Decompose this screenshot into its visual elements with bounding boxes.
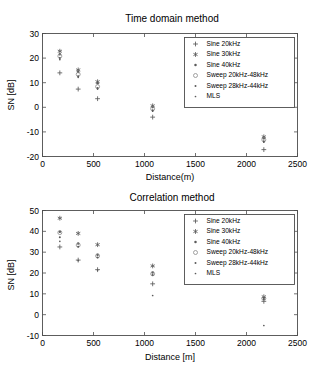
- x-tick-label: 1500: [186, 338, 205, 348]
- data-point: [76, 87, 81, 92]
- x-tick-label: 500: [86, 159, 100, 169]
- data-point: [263, 325, 265, 327]
- legend-marker-small-dot: [195, 262, 197, 264]
- x-tick-label: 0: [40, 159, 45, 169]
- legend-marker-small-dot: [195, 85, 197, 87]
- chart-title: Correlation method: [129, 192, 214, 203]
- y-tick-label: 0: [34, 310, 39, 320]
- x-tick-label: 1000: [135, 159, 154, 169]
- x-axis-label: Distance(m): [146, 172, 195, 182]
- data-point: [263, 298, 265, 300]
- legend: Sine 20kHzSine 30kHzSine 40kHzSweep 20kH…: [185, 38, 295, 108]
- legend-label: Sine 30kHz: [207, 227, 241, 234]
- data-point: [59, 236, 61, 238]
- x-axis-label: Distance [m]: [145, 352, 195, 362]
- x-tick-label: 2500: [288, 159, 307, 169]
- legend-label: Sweep 20kHz-48kHz: [207, 71, 269, 79]
- y-axis-label: SN [dB]: [6, 259, 16, 290]
- data-point: [58, 49, 62, 54]
- data-point: [97, 257, 99, 259]
- data-point: [57, 70, 62, 75]
- legend-marker-point: [195, 96, 197, 98]
- y-tick-label: -20: [27, 152, 40, 162]
- correlation-plot-svg: Correlation method 05001000150020002500 …: [0, 185, 325, 371]
- y-tick-label: 30: [30, 29, 40, 39]
- data-point: [150, 115, 155, 120]
- data-point: [58, 216, 62, 221]
- legend-label: Sweep 20kHz-48kHz: [207, 248, 269, 256]
- x-tick-label: 500: [86, 338, 100, 348]
- y-tick-label: 20: [30, 53, 40, 63]
- data-point: [263, 141, 265, 143]
- data-point: [77, 76, 79, 78]
- data-point: [95, 242, 99, 247]
- x-tick-labels: 05001000150020002500: [40, 338, 307, 348]
- legend-marker-point: [195, 273, 197, 275]
- legend-label: Sine 20kHz: [207, 40, 241, 47]
- y-tick-label: 10: [30, 289, 40, 299]
- data-point: [77, 246, 79, 248]
- legend: Sine 20kHzSine 30kHzSine 40kHzSweep 20kH…: [185, 215, 295, 285]
- data-point: [97, 88, 99, 90]
- y-tick-label: 50: [30, 206, 40, 216]
- y-axis-label: SN [dB]: [6, 79, 16, 110]
- x-tick-label: 2500: [288, 338, 307, 348]
- y-tick-labels: -1001020304050: [27, 206, 40, 341]
- y-tick-label: 20: [30, 268, 40, 278]
- data-point: [59, 240, 61, 242]
- x-tick-labels: 05001000150020002500: [40, 159, 307, 169]
- correlation-chart: Correlation method 05001000150020002500 …: [0, 185, 325, 371]
- legend-label: Sine 40kHz: [207, 238, 241, 245]
- data-point: [95, 96, 100, 101]
- x-tick-label: 2000: [237, 338, 256, 348]
- legend-label: MLS: [207, 92, 221, 99]
- legend-label: Sine 40kHz: [207, 61, 241, 68]
- chart-title: Time domain method: [125, 13, 219, 24]
- y-tick-label: 30: [30, 247, 40, 257]
- data-point: [57, 245, 62, 250]
- time-domain-plot-svg: Time domain method 05001000150020002500 …: [0, 0, 325, 186]
- x-tick-label: 2000: [237, 159, 256, 169]
- data-point: [152, 110, 154, 112]
- legend-marker-dot: [194, 64, 197, 67]
- legend-label: Sweep 28kHz-44kHz: [207, 82, 269, 90]
- legend-label: Sine 20kHz: [207, 217, 241, 224]
- data-point: [152, 274, 154, 276]
- data-point: [76, 231, 80, 236]
- x-tick-label: 1500: [186, 159, 205, 169]
- x-tick-label: 0: [40, 338, 45, 348]
- data-point: [152, 295, 154, 297]
- x-tick-label: 1000: [135, 338, 154, 348]
- y-tick-label: -10: [27, 127, 40, 137]
- data-point: [151, 264, 155, 269]
- data-point: [59, 59, 61, 61]
- data-point: [77, 260, 79, 262]
- data-point: [261, 147, 266, 152]
- legend-marker-dot: [194, 241, 197, 244]
- time-domain-chart: Time domain method 05001000150020002500 …: [0, 0, 325, 186]
- data-point: [97, 269, 99, 271]
- legend-label: Sine 30kHz: [207, 50, 241, 57]
- y-tick-label: 0: [34, 102, 39, 112]
- y-tick-label: 40: [30, 226, 40, 236]
- data-point: [150, 281, 155, 286]
- y-tick-labels: -20-100102030: [27, 29, 40, 162]
- y-tick-label: 10: [30, 78, 40, 88]
- legend-label: Sweep 28kHz-44kHz: [207, 259, 269, 267]
- y-tick-label: -10: [27, 331, 40, 341]
- data-point: [96, 82, 99, 85]
- legend-label: MLS: [207, 269, 221, 276]
